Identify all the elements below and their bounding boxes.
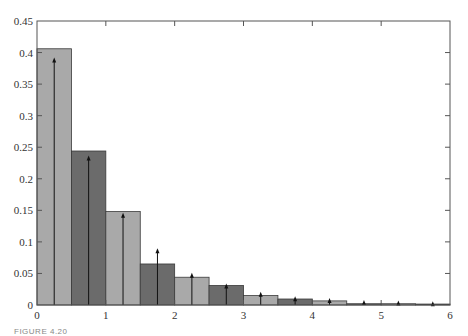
figure-caption: FIGURE 4.20 <box>14 327 68 336</box>
x-tick-label: 0 <box>34 309 40 321</box>
y-tick-label: 0.2 <box>19 173 33 185</box>
x-tick-label: 4 <box>310 309 316 321</box>
y-tick-label: 0.3 <box>19 110 33 122</box>
histogram-chart: 00.050.10.150.20.250.30.350.40.45 012345… <box>0 0 468 336</box>
y-tick-label: 0.35 <box>14 78 34 90</box>
y-tick-label: 0.05 <box>14 267 34 279</box>
y-tick-label: 0 <box>28 299 34 311</box>
y-tick-label: 0.45 <box>14 15 34 27</box>
histogram-bars <box>37 49 450 305</box>
x-tick-label: 3 <box>241 309 247 321</box>
x-tick-label: 2 <box>172 309 178 321</box>
y-tick-label: 0.4 <box>19 47 33 59</box>
y-tick-label: 0.15 <box>14 204 34 216</box>
x-tick-label: 1 <box>103 309 109 321</box>
x-tick-label: 5 <box>378 309 384 321</box>
y-tick-label: 0.1 <box>19 236 33 248</box>
x-tick-label: 6 <box>447 309 453 321</box>
y-tick-label: 0.25 <box>14 141 34 153</box>
impulse-arrow <box>362 300 366 305</box>
